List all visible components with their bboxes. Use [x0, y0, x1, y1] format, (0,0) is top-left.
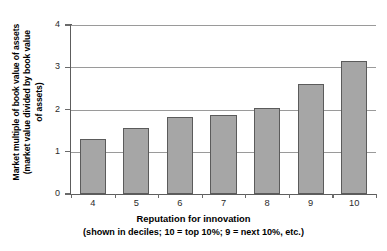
x-tick-label-10: 10: [349, 198, 359, 208]
x-tick-mark-6: [332, 194, 333, 198]
x-axis-note: (shown in deciles; 10 = top 10%; 9 = nex…: [0, 226, 387, 240]
x-tick-label-8: 8: [264, 198, 269, 208]
bar-chart-figure: Market multiple of book value of assets …: [0, 0, 387, 251]
gridline-3: [71, 67, 376, 68]
x-tick-mark-4: [245, 194, 246, 198]
x-axis-caption: Reputation for innovation (shown in deci…: [0, 212, 387, 239]
y-tick-label-0: 0: [42, 188, 60, 198]
x-tick-label-9: 9: [308, 198, 313, 208]
bar-decile-10: [341, 61, 367, 195]
y-axis-title-line-1: Market multiple of book value of assets: [11, 24, 22, 181]
y-tick-label-2: 2: [42, 104, 60, 114]
bar-decile-8: [254, 108, 280, 194]
plot-area: [71, 25, 376, 194]
y-tick-label-1: 1: [42, 146, 60, 156]
gridline-4: [71, 25, 376, 26]
x-tick-label-5: 5: [134, 198, 139, 208]
x-tick-mark-0: [71, 194, 72, 198]
bar-decile-5: [123, 128, 149, 194]
x-axis-label: Reputation for innovation: [0, 212, 387, 226]
x-tick-mark-5: [289, 194, 290, 198]
x-tick-mark-7: [376, 194, 377, 198]
x-tick-label-4: 4: [90, 198, 95, 208]
y-axis-title-line-2: (market value divided by book value: [22, 24, 33, 181]
bar-decile-6: [167, 117, 193, 194]
x-tick-mark-3: [202, 194, 203, 198]
y-axis-title-line-3: of assets): [34, 24, 45, 181]
x-tick-label-7: 7: [221, 198, 226, 208]
x-tick-mark-2: [158, 194, 159, 198]
bar-decile-4: [80, 139, 106, 194]
y-tick-label-4: 4: [42, 19, 60, 29]
y-axis-title: Market multiple of book value of assets …: [0, 0, 56, 205]
bar-decile-9: [298, 84, 324, 194]
x-tick-mark-1: [115, 194, 116, 198]
x-tick-label-6: 6: [177, 198, 182, 208]
bar-decile-7: [210, 115, 236, 194]
y-tick-label-3: 3: [42, 61, 60, 71]
gridline-2: [71, 110, 376, 111]
